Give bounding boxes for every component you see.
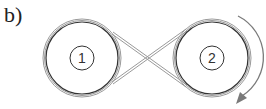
crossed-belt-diagram: b) 1 2 [0,0,266,109]
pulley-2-number: 2 [208,50,216,66]
pulley-1: 1 [46,22,118,94]
pulley-1-number: 1 [78,50,86,66]
pulley-2: 2 [176,22,248,94]
diagram-svg: 1 2 [0,0,266,109]
